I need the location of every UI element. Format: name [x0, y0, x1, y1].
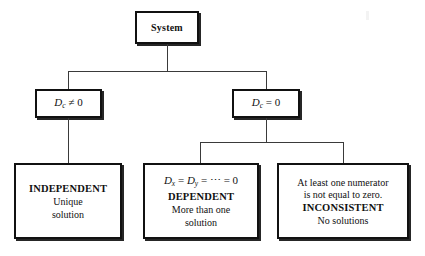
- dependent-formula-operator-1: =: [178, 174, 184, 186]
- inconsistent-line-1: At least one numerator: [297, 177, 388, 189]
- dc-zero-operator: =: [266, 96, 272, 108]
- dependent-formula-operator-3: =: [224, 174, 230, 186]
- node-condition-dc-zero-label: Dc = 0: [252, 96, 281, 110]
- node-condition-dc-nonzero: Dc ≠ 0: [35, 89, 102, 118]
- node-outcome-inconsistent: At least one numerator is not equal to z…: [277, 163, 409, 239]
- dc-zero-subscript: c: [260, 101, 263, 110]
- connector-independent-stem: [68, 118, 69, 163]
- independent-line-1: Unique: [53, 196, 82, 208]
- dc-nonzero-subscript: c: [62, 101, 65, 110]
- dc-zero-symbol: D: [252, 96, 260, 108]
- dependent-formula-operator-2: =: [201, 174, 207, 186]
- node-condition-dc-zero: Dc = 0: [232, 89, 300, 118]
- dependent-formula-symbol-1: D: [164, 174, 172, 186]
- connector-level2-bar: [200, 142, 343, 143]
- dependent-line-1: More than one: [172, 204, 230, 216]
- dependent-formula-ellipsis: ⋯: [210, 174, 221, 186]
- dependent-formula-symbol-2: D: [187, 174, 195, 186]
- node-system-label: System: [151, 22, 183, 34]
- connector-inconsistent-drop: [343, 142, 344, 163]
- dc-nonzero-operator: ≠: [68, 96, 74, 108]
- dc-zero-value: 0: [275, 96, 281, 108]
- node-condition-dc-nonzero-label: Dc ≠ 0: [54, 96, 82, 110]
- connector-root-stem: [167, 44, 168, 71]
- flowchart-diagram: System Dc ≠ 0 Dc = 0 INDEPENDENT Unique …: [0, 0, 425, 256]
- dependent-line-2: solution: [185, 217, 217, 229]
- independent-heading: INDEPENDENT: [29, 183, 107, 195]
- dependent-formula-value: 0: [233, 174, 239, 186]
- connector-dc-zero-stem: [266, 118, 267, 142]
- dc-nonzero-value: 0: [77, 96, 83, 108]
- independent-line-2: solution: [52, 209, 84, 221]
- dependent-heading: DEPENDENT: [168, 191, 234, 203]
- connector-level1-left-drop: [68, 71, 69, 89]
- node-system: System: [135, 11, 199, 44]
- node-outcome-independent: INDEPENDENT Unique solution: [14, 163, 122, 239]
- inconsistent-line-3: No solutions: [318, 215, 369, 227]
- inconsistent-heading: INCONSISTENT: [302, 202, 383, 214]
- dependent-formula-subscript-2: y: [195, 178, 198, 187]
- inconsistent-line-2: is not equal to zero.: [304, 189, 383, 201]
- dependent-formula-subscript-1: x: [172, 178, 175, 187]
- connector-dependent-drop: [200, 142, 201, 163]
- scan-artifact-speck: [366, 11, 369, 20]
- node-outcome-dependent: Dx = Dy = ⋯ = 0 DEPENDENT More than one …: [143, 163, 259, 239]
- dependent-formula: Dx = Dy = ⋯ = 0: [164, 174, 238, 188]
- connector-level1-right-drop: [266, 71, 267, 89]
- connector-level1-bar: [68, 71, 267, 72]
